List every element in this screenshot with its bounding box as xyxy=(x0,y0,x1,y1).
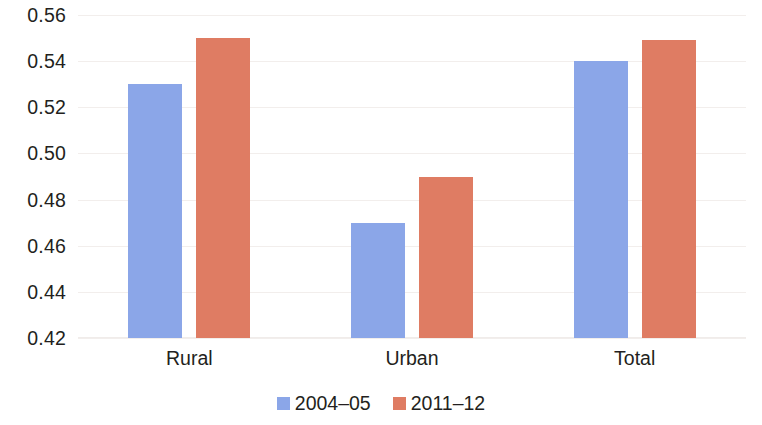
y-axis-tick-label: 0.52 xyxy=(0,97,66,117)
chart-legend: 2004–052011–12 xyxy=(0,388,762,418)
legend-swatch-icon xyxy=(393,397,406,410)
bar-urban-series-2 xyxy=(419,177,473,339)
bar-total-series-2 xyxy=(642,40,696,338)
y-axis-tick-label: 0.54 xyxy=(0,51,66,71)
legend-item[interactable]: 2011–12 xyxy=(393,392,485,414)
gridline xyxy=(78,338,746,339)
y-axis-tick-label: 0.56 xyxy=(0,5,66,25)
legend-label: 2011–12 xyxy=(411,392,485,414)
y-axis-tick-label: 0.46 xyxy=(0,236,66,256)
x-axis-tick-label: Total xyxy=(555,345,715,371)
legend-swatch-icon xyxy=(277,397,290,410)
gridline xyxy=(78,15,746,16)
bar-rural-series-1 xyxy=(128,84,182,338)
bar-total-series-1 xyxy=(574,61,628,338)
x-axis-tick-label: Urban xyxy=(332,345,492,371)
legend-label: 2004–05 xyxy=(295,392,371,414)
plot-area xyxy=(78,15,746,338)
y-axis: 0.560.540.520.500.480.460.440.42 xyxy=(0,0,72,350)
y-axis-tick-label: 0.48 xyxy=(0,190,66,210)
y-axis-tick-label: 0.42 xyxy=(0,328,66,348)
legend-item[interactable]: 2004–05 xyxy=(277,392,371,414)
bar-chart-figure: 0.560.540.520.500.480.460.440.42 RuralUr… xyxy=(0,0,762,425)
bar-rural-series-2 xyxy=(196,38,250,338)
x-axis: RuralUrbanTotal xyxy=(78,345,746,377)
x-axis-tick-label: Rural xyxy=(109,345,269,371)
y-axis-tick-label: 0.50 xyxy=(0,143,66,163)
y-axis-tick-label: 0.44 xyxy=(0,282,66,302)
bar-urban-series-1 xyxy=(351,223,405,338)
